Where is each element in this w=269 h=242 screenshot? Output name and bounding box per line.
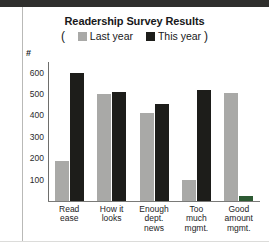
category-label-5: Goodamountmgmt. (218, 205, 260, 233)
legend-swatch-this-year (146, 32, 155, 41)
scan-top-band-artifact (0, 0, 269, 7)
bar-last-year-4 (182, 180, 196, 201)
bar-this-year-2 (112, 92, 126, 201)
bar-last-year-2 (97, 94, 111, 201)
legend-close-paren: ) (204, 29, 208, 43)
x-axis-line (48, 201, 260, 202)
legend-item-last-year: Last year (78, 30, 133, 42)
bar-group-2 (97, 62, 126, 201)
legend-label-last-year: Last year (90, 30, 133, 42)
legend-label-this-year: This year (158, 30, 201, 42)
y-axis-title: # (26, 48, 31, 58)
y-tick-label-300: 300 (20, 132, 44, 142)
x-axis-category-labels: ReadeaseHow itlooksEnoughdept.newsToomuc… (48, 205, 260, 242)
y-tick-label-500: 500 (20, 89, 44, 99)
bar-last-year-3 (140, 113, 154, 201)
bars-layer (48, 62, 260, 201)
bar-group-1 (55, 62, 84, 201)
legend-item-this-year: This year (146, 30, 201, 42)
bar-group-3 (140, 62, 169, 201)
bar-last-year-1 (55, 161, 69, 201)
y-axis-tick-labels: 100200300400500600 (20, 62, 44, 201)
bar-this-year-1 (70, 73, 84, 201)
bar-group-5 (224, 62, 253, 201)
category-label-2: How itlooks (90, 205, 132, 224)
category-label-4: Toomuchmgmt. (175, 205, 217, 233)
category-label-3: Enoughdept.news (133, 205, 175, 233)
bar-group-4 (182, 62, 211, 201)
bar-this-year-3 (155, 104, 169, 201)
legend-open-paren: ( (61, 29, 65, 43)
y-tick-label-200: 200 (20, 153, 44, 163)
legend-swatch-last-year (78, 32, 87, 41)
y-tick-label-400: 400 (20, 110, 44, 120)
bar-this-year-4 (197, 90, 211, 201)
chart-root: Readership Survey Results ( Last year Th… (0, 0, 269, 242)
category-label-1: Readease (48, 205, 90, 224)
chart-title: Readership Survey Results (0, 15, 269, 27)
bar-this-year-5 (239, 196, 253, 201)
y-tick-label-600: 600 (20, 68, 44, 78)
chart-legend: ( Last year This year ) (0, 29, 269, 43)
y-tick-label-100: 100 (20, 175, 44, 185)
bar-last-year-5 (224, 93, 238, 201)
